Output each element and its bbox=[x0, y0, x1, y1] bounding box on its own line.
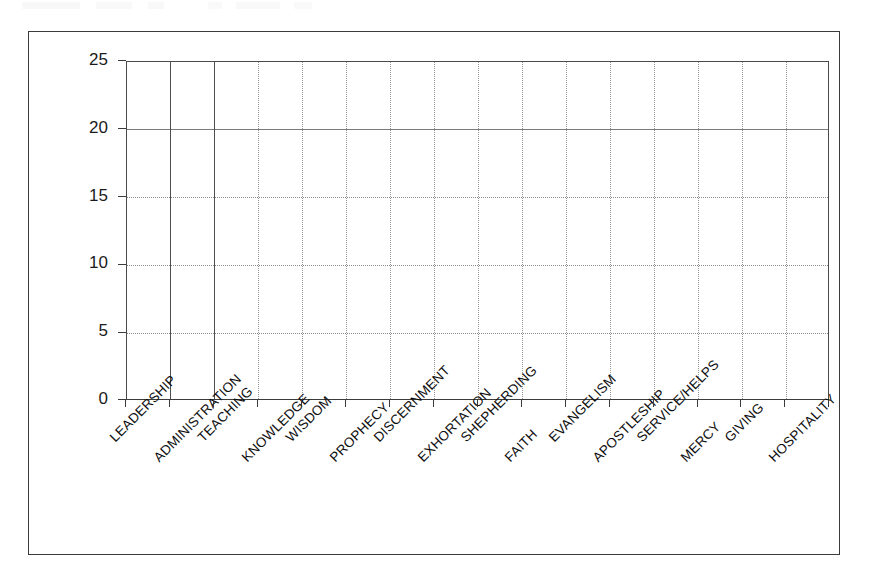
gridline-vertical bbox=[522, 62, 523, 399]
x-axis-tick bbox=[521, 400, 522, 407]
x-axis-tick bbox=[125, 400, 126, 407]
x-axis-tick bbox=[828, 400, 829, 407]
x-axis-category-label[interactable]: FAITH bbox=[502, 426, 540, 464]
scan-artifact-band bbox=[22, 2, 312, 9]
gridline-vertical bbox=[566, 62, 567, 399]
plot-area bbox=[126, 61, 829, 400]
x-axis-tick bbox=[213, 400, 214, 407]
gridline-vertical bbox=[698, 62, 699, 399]
x-axis-tick bbox=[301, 400, 302, 407]
chart-frame: LEADERSHIPADMINISTRATIONTEACHINGKNOWLEDG… bbox=[28, 31, 840, 555]
x-axis-tick bbox=[433, 400, 434, 407]
y-axis-tick bbox=[118, 332, 126, 333]
y-axis-label: 20 bbox=[52, 118, 108, 138]
x-axis-tick bbox=[389, 400, 390, 407]
x-axis-tick bbox=[565, 400, 566, 407]
gridline-vertical bbox=[786, 62, 787, 399]
gridline-vertical bbox=[346, 62, 347, 399]
x-axis-tick bbox=[653, 400, 654, 407]
x-axis-tick bbox=[740, 400, 741, 407]
x-axis-tick bbox=[697, 400, 698, 407]
x-axis-tick bbox=[609, 400, 610, 407]
y-axis-tick bbox=[118, 196, 126, 197]
y-axis-label: 15 bbox=[52, 186, 108, 206]
x-axis-tick bbox=[784, 400, 785, 407]
y-axis-label: 5 bbox=[52, 321, 108, 341]
gridline-vertical bbox=[654, 62, 655, 399]
gridline-vertical bbox=[214, 62, 215, 399]
gridline-vertical bbox=[434, 62, 435, 399]
x-axis-category-label[interactable]: GIVING bbox=[722, 400, 767, 445]
x-axis-tick bbox=[477, 400, 478, 407]
y-axis-label: 25 bbox=[52, 50, 108, 70]
gridline-vertical bbox=[478, 62, 479, 399]
x-axis-tick bbox=[257, 400, 258, 407]
x-axis-tick bbox=[345, 400, 346, 407]
x-axis-tick bbox=[169, 400, 170, 407]
y-axis-label: 0 bbox=[52, 389, 108, 409]
gridline-vertical bbox=[258, 62, 259, 399]
y-axis-tick bbox=[118, 128, 126, 129]
y-axis-tick bbox=[118, 60, 126, 61]
x-axis-category-label[interactable]: MERCY bbox=[678, 419, 724, 465]
y-axis-tick bbox=[118, 264, 126, 265]
gridline-vertical bbox=[742, 62, 743, 399]
gridline-vertical bbox=[390, 62, 391, 399]
y-axis-label: 10 bbox=[52, 253, 108, 273]
gridline-vertical bbox=[170, 62, 171, 399]
gridline-vertical bbox=[302, 62, 303, 399]
gridline-vertical bbox=[610, 62, 611, 399]
